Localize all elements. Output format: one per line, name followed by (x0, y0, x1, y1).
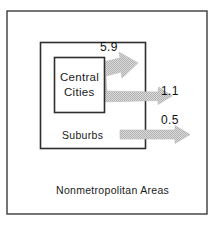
flow-value-1-1: 1.1 (161, 84, 179, 98)
central-cities-label-line1: Central (60, 71, 99, 83)
central-cities-label-line2: Cities (64, 86, 95, 98)
nonmetropolitan-areas-label: Nonmetropolitan Areas (56, 184, 169, 196)
suburbs-label: Suburbs (62, 129, 103, 141)
flow-value-5-9: 5.9 (100, 40, 118, 54)
flow-value-0-5: 0.5 (161, 113, 179, 127)
central-cities-box (55, 58, 105, 113)
flow-arrow-0-5 (120, 126, 190, 144)
diagram-canvas: Central Cities Suburbs Nonmetropolitan A… (0, 0, 214, 226)
migration-flow-diagram: Central Cities Suburbs Nonmetropolitan A… (0, 0, 214, 226)
flow-arrow-5-9 (100, 52, 138, 92)
